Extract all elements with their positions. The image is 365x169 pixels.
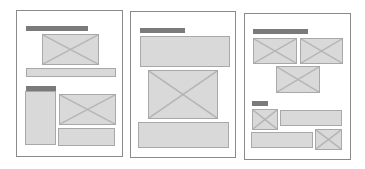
image-placeholder — [315, 129, 342, 150]
tall-text-block — [25, 91, 56, 145]
text-block — [26, 68, 116, 77]
text-block — [58, 128, 115, 146]
image-placeholder — [252, 109, 278, 130]
heading-bar — [253, 29, 308, 34]
heading-bar — [252, 101, 268, 106]
image-placeholder — [59, 94, 116, 125]
text-block — [140, 36, 230, 67]
heading-bar — [140, 28, 185, 33]
heading-bar — [26, 26, 88, 31]
image-placeholder — [276, 66, 320, 93]
image-placeholder — [300, 38, 343, 64]
wireframe-page-3 — [244, 13, 351, 160]
image-placeholder — [42, 34, 99, 65]
wireframe-page-1 — [16, 10, 123, 157]
text-block — [280, 110, 342, 126]
wireframe-page-2 — [130, 11, 236, 158]
image-placeholder — [148, 70, 218, 119]
text-block — [251, 132, 313, 148]
image-placeholder — [253, 38, 297, 64]
text-block — [138, 122, 229, 148]
